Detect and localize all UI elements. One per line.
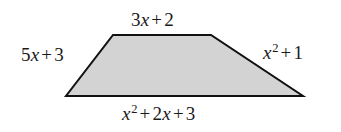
label-bottom-variable-2: x [162,103,171,124]
label-right-variable: x [263,42,272,63]
label-top-operator: + [149,9,164,30]
geometry-figure: 3x+2 5x+3 x2+1 x2+2x+3 [0,0,341,132]
label-bottom-operator-1: + [138,103,153,124]
label-top-side: 3x+2 [131,10,174,29]
label-bottom-constant: 3 [186,103,196,124]
label-left-side: 5x+3 [21,45,64,64]
label-left-operator: + [39,44,54,65]
label-bottom-side: x2+2x+3 [122,104,196,123]
label-bottom-operator-2: + [171,103,186,124]
label-right-side: x2+1 [263,43,303,62]
label-top-constant: 2 [164,9,174,30]
label-top-coefficient: 3 [131,9,141,30]
label-left-constant: 3 [54,44,64,65]
label-right-exponent: 2 [272,41,279,55]
label-bottom-variable-1: x [122,103,131,124]
label-right-constant: 1 [294,42,304,63]
label-bottom-exponent: 2 [131,102,138,116]
label-left-coefficient: 5 [21,44,31,65]
label-bottom-coefficient-2: 2 [153,103,163,124]
label-right-operator: + [279,42,294,63]
